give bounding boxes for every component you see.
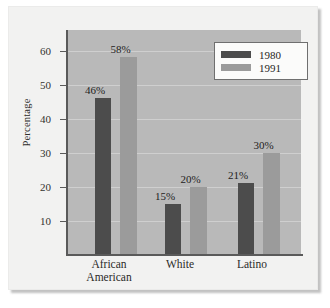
legend-label-1991: 1991 [259,62,281,74]
y-tick-mark-20 [60,187,66,188]
y-tick-mark-10 [60,221,66,222]
bar-latino-1991[interactable] [263,153,280,255]
category-label-line1: African [69,258,149,271]
category-label-line2: American [69,271,149,284]
bar-african-american-1991[interactable] [120,57,137,255]
chart-legend: 1980 1991 [214,42,308,80]
y-tick-mark-60 [60,51,66,52]
y-axis-line [66,30,68,256]
bar-value-white-1980: 15% [149,190,181,202]
legend-swatch-icon-1980 [221,51,251,58]
category-label-latino: Latino [216,258,288,271]
bar-value-african-american-1991: 58% [104,43,137,55]
y-tick-label-10: 10 [9,216,51,227]
y-tick-label-60: 60 [9,46,51,57]
category-label-white: White [145,258,215,271]
legend-item-1991[interactable]: 1991 [221,61,301,74]
legend-item-1980[interactable]: 1980 [221,48,301,61]
legend-swatch-icon-1991 [221,64,251,71]
bar-african-american-1980[interactable] [95,98,111,255]
bar-value-white-1991: 20% [174,173,207,185]
category-label-african-american: African American [69,258,149,284]
category-label-line1: White [145,258,215,271]
y-axis-title: Percentage [21,75,32,171]
y-tick-mark-40 [60,119,66,120]
bar-latino-1980[interactable] [238,183,254,255]
x-axis-line [67,254,303,256]
bar-value-african-american-1980: 46% [79,84,111,96]
bar-value-latino-1980: 21% [222,169,254,181]
y-tick-label-20: 20 [9,182,51,193]
y-tick-mark-50 [60,85,66,86]
legend-label-1980: 1980 [259,49,281,61]
bar-white-1991[interactable] [190,187,207,255]
chart-figure-card: 10 20 30 40 50 60 Percentage 46% 58% 15%… [8,6,318,290]
category-label-line1: Latino [216,258,288,271]
y-tick-mark-30 [60,153,66,154]
bar-white-1980[interactable] [165,204,181,255]
bar-value-latino-1991: 30% [247,139,280,151]
